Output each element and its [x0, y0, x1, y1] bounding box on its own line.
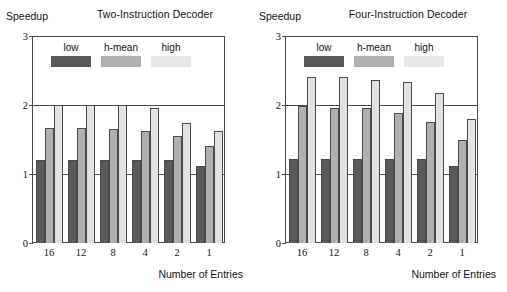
- bar-hmean: [141, 131, 150, 243]
- bar-low: [321, 159, 330, 243]
- y-tick-label: 2: [23, 99, 28, 110]
- legend-label: h-mean: [104, 42, 138, 53]
- chart-panel-two-instruction: Two-Instruction Decoder Speedup 16128421…: [0, 0, 253, 292]
- bar-group: 16: [33, 36, 65, 243]
- bar-low: [353, 159, 362, 243]
- bar-groups: 16128421: [33, 36, 225, 243]
- bar-group: 8: [350, 36, 382, 243]
- legend-label: h-mean: [357, 42, 391, 53]
- legend-item-low: low: [304, 42, 344, 67]
- bar-hmean: [394, 113, 403, 243]
- bar-hmean: [173, 136, 182, 243]
- legend-label: low: [63, 42, 78, 53]
- bar-high: [54, 105, 63, 243]
- x-tick-label: 1: [459, 247, 464, 258]
- bar-group: 12: [318, 36, 350, 243]
- legend-swatch-high: [151, 56, 191, 67]
- legend-label: high: [162, 42, 181, 53]
- bar-high: [182, 123, 191, 243]
- x-tick-label: 2: [174, 247, 179, 258]
- bar-low: [68, 160, 77, 243]
- y-tick-mark: [282, 174, 286, 175]
- bar-group: 4: [129, 36, 161, 243]
- bar-group: 4: [382, 36, 414, 243]
- bar-high: [371, 80, 380, 243]
- x-axis-label: Number of Entries: [253, 268, 496, 280]
- y-tick-mark: [29, 36, 33, 37]
- x-tick-label: 4: [142, 247, 147, 258]
- x-tick-label: 16: [44, 247, 55, 258]
- bar-group: 12: [65, 36, 97, 243]
- legend-item-hmean: h-mean: [101, 42, 141, 67]
- legend-swatch-high: [404, 56, 444, 67]
- bar-hmean: [426, 122, 435, 243]
- bar-hmean: [330, 108, 339, 243]
- bar-group: 1: [193, 36, 225, 243]
- legend-swatch-low: [51, 56, 91, 67]
- y-tick-mark: [282, 36, 286, 37]
- plot-area: 16128421 lowh-meanhigh 0123: [32, 36, 225, 243]
- x-tick-label: 8: [110, 247, 115, 258]
- chart-panel-four-instruction: Four-Instruction Decoder Speedup 1612842…: [253, 0, 506, 292]
- bar-low: [100, 160, 109, 243]
- bar-high: [86, 105, 95, 243]
- bar-hmean: [45, 128, 54, 243]
- bar-low: [132, 160, 141, 243]
- chart-title: Two-Instruction Decoder: [60, 8, 250, 20]
- bar-group: 2: [414, 36, 446, 243]
- y-tick-mark: [29, 243, 33, 244]
- bar-low: [417, 159, 426, 243]
- bar-high: [467, 119, 476, 243]
- y-tick-label: 3: [276, 31, 281, 42]
- y-tick-mark: [282, 105, 286, 106]
- x-axis-label: Number of Entries: [0, 268, 243, 280]
- bar-high: [150, 108, 159, 243]
- legend-item-low: low: [51, 42, 91, 67]
- bar-high: [403, 82, 412, 243]
- x-tick-label: 8: [363, 247, 368, 258]
- x-tick-label: 12: [329, 247, 340, 258]
- bar-low: [385, 159, 394, 243]
- bar-group: 2: [161, 36, 193, 243]
- legend-swatch-hmean: [101, 56, 141, 67]
- y-tick-mark: [29, 105, 33, 106]
- y-tick-label: 1: [23, 168, 28, 179]
- x-tick-label: 12: [76, 247, 87, 258]
- legend-swatch-hmean: [354, 56, 394, 67]
- y-tick-label: 3: [23, 31, 28, 42]
- legend-item-hmean: h-mean: [354, 42, 394, 67]
- x-tick-label: 4: [395, 247, 400, 258]
- bar-hmean: [298, 106, 307, 243]
- bar-hmean: [77, 128, 86, 243]
- figure: Two-Instruction Decoder Speedup 16128421…: [0, 0, 507, 292]
- x-tick-label: 16: [297, 247, 308, 258]
- bar-hmean: [362, 108, 371, 243]
- x-tick-label: 1: [206, 247, 211, 258]
- bar-low: [196, 166, 205, 243]
- bar-low: [164, 160, 173, 243]
- bar-groups: 16128421: [286, 36, 478, 243]
- bar-low: [449, 166, 458, 243]
- y-tick-label: 2: [276, 99, 281, 110]
- y-tick-label: 0: [23, 238, 28, 249]
- bar-high: [118, 105, 127, 243]
- plot-area: 16128421 lowh-meanhigh 0123: [285, 36, 478, 243]
- y-axis-label: Speedup: [259, 10, 301, 22]
- bar-hmean: [109, 129, 118, 243]
- bar-low: [36, 160, 45, 243]
- bar-low: [289, 159, 298, 243]
- y-tick-mark: [282, 243, 286, 244]
- y-tick-label: 1: [276, 168, 281, 179]
- legend-label: high: [415, 42, 434, 53]
- y-axis-label: Speedup: [6, 10, 48, 22]
- chart-title: Four-Instruction Decoder: [313, 8, 503, 20]
- y-tick-mark: [29, 174, 33, 175]
- bar-group: 16: [286, 36, 318, 243]
- bar-high: [307, 77, 316, 243]
- bar-group: 1: [446, 36, 478, 243]
- bar-group: 8: [97, 36, 129, 243]
- bar-high: [214, 131, 223, 243]
- legend-swatch-low: [304, 56, 344, 67]
- chart-legend: lowh-meanhigh: [51, 42, 191, 67]
- bar-high: [339, 77, 348, 243]
